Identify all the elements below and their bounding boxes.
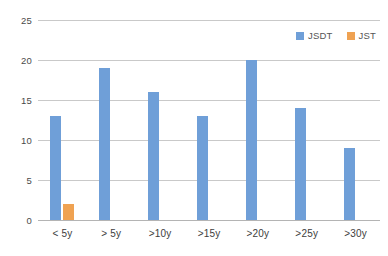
bar-chart: JSDT JST 0510152025 < 5y> 5y>10y>15y>20y… [0, 0, 388, 256]
y-tick-label-10: 10 [0, 135, 32, 146]
bar-group [233, 20, 282, 220]
x-tick-label-1: > 5y [87, 224, 136, 244]
x-tick-label-4: >20y [233, 224, 282, 244]
x-tick-label-2: >10y [136, 224, 185, 244]
y-tick-label-5: 5 [0, 175, 32, 186]
x-tick-label-6: >30y [331, 224, 380, 244]
bar-jsdt-3[interactable] [197, 116, 208, 220]
bar-jst-0[interactable] [63, 204, 74, 220]
bar-jsdt-2[interactable] [148, 92, 159, 220]
bar-groups [38, 20, 380, 220]
y-tick-label-25: 25 [0, 15, 32, 26]
bar-group [331, 20, 380, 220]
x-tick-label-0: < 5y [38, 224, 87, 244]
bar-jsdt-1[interactable] [99, 68, 110, 220]
y-tick-label-15: 15 [0, 95, 32, 106]
x-tick-label-5: >25y [282, 224, 331, 244]
bar-jsdt-4[interactable] [246, 60, 257, 220]
bar-group [282, 20, 331, 220]
bar-group [185, 20, 234, 220]
bar-jsdt-6[interactable] [344, 148, 355, 220]
x-axis-labels: < 5y> 5y>10y>15y>20y>25y>30y [38, 224, 380, 244]
bar-group [38, 20, 87, 220]
x-tick-label-3: >15y [185, 224, 234, 244]
bar-group [136, 20, 185, 220]
bar-jsdt-0[interactable] [50, 116, 61, 220]
bar-group [87, 20, 136, 220]
plot-area [38, 20, 380, 220]
y-tick-label-20: 20 [0, 55, 32, 66]
bar-jsdt-5[interactable] [295, 108, 306, 220]
y-tick-label-0: 0 [0, 215, 32, 226]
gridline-0 [38, 220, 380, 221]
